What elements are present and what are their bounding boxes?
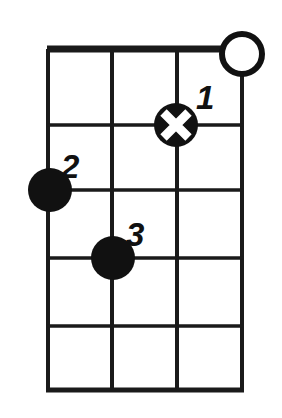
finger-label-2: 2 [60,148,80,185]
open-string-marker-string-4 [222,34,262,74]
finger-label-3: 3 [126,216,144,253]
chord-diagram: 1 2 3 [0,0,282,418]
finger-dot-1-x-marker [154,103,198,147]
chord-diagram-canvas: 1 2 3 [0,0,282,418]
finger-label-1: 1 [196,79,214,116]
